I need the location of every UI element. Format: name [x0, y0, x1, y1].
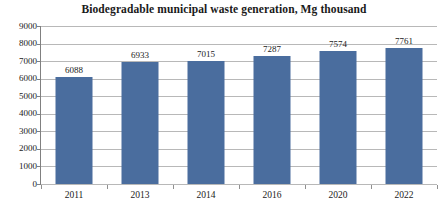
bar-group: 6933 [107, 26, 173, 184]
y-axis-tick-mark [37, 61, 41, 62]
x-axis-tick-label: 2022 [371, 190, 437, 201]
bar-value-label: 6933 [131, 50, 149, 60]
y-axis-tick-label: 6000 [3, 74, 37, 83]
y-axis-tick-label: 1000 [3, 162, 37, 171]
y-axis-tick-label: 8000 [3, 39, 37, 48]
y-axis-tick-mark [37, 44, 41, 45]
y-axis-tick-label: 0 [3, 180, 37, 189]
bar-value-label: 7015 [197, 49, 215, 59]
bar-group: 7015 [173, 26, 239, 184]
y-axis-tick-mark [37, 166, 41, 167]
x-axis-tick-mark [107, 185, 108, 189]
bar-chart: Biodegradable municipal waste generation… [0, 0, 448, 219]
x-axis-tick-mark [437, 185, 438, 189]
y-axis-labels: 9000800070006000500040003000200010000 [0, 0, 37, 219]
x-axis-tick-label: 2013 [107, 190, 173, 201]
y-axis-tick-mark [37, 26, 41, 27]
y-axis-tick-mark [37, 131, 41, 132]
bar-group: 7574 [305, 26, 371, 184]
bar-group: 7287 [239, 26, 305, 184]
chart-title: Biodegradable municipal waste generation… [0, 3, 448, 15]
bar[interactable] [320, 51, 357, 184]
y-axis-tick-label: 5000 [3, 92, 37, 101]
bar-group: 6088 [41, 26, 107, 184]
y-axis-tick-mark [37, 96, 41, 97]
y-axis-tick-label: 2000 [3, 144, 37, 153]
bar[interactable] [188, 61, 225, 184]
bar-group: 7761 [371, 26, 437, 184]
x-axis-tick-mark [371, 185, 372, 189]
bar[interactable] [386, 48, 423, 184]
y-axis-tick-mark [37, 79, 41, 80]
bar-value-label: 6088 [65, 65, 83, 75]
bar[interactable] [122, 62, 159, 184]
bar-value-label: 7287 [263, 44, 281, 54]
plot-area: 608869337015728775747761 [41, 26, 437, 184]
y-axis-tick-label: 3000 [3, 127, 37, 136]
x-axis-tick-mark [239, 185, 240, 189]
bar[interactable] [254, 56, 291, 184]
y-axis-tick-label: 7000 [3, 57, 37, 66]
bar[interactable] [56, 77, 93, 184]
x-axis-tick-label: 2014 [173, 190, 239, 201]
y-axis-tick-mark [37, 114, 41, 115]
y-axis-tick-mark [37, 149, 41, 150]
x-axis-tick-mark [173, 185, 174, 189]
y-axis-tick-label: 9000 [3, 22, 37, 31]
bar-value-label: 7761 [395, 36, 413, 46]
bar-value-label: 7574 [329, 39, 347, 49]
x-axis-tick-label: 2020 [305, 190, 371, 201]
x-axis-tick-label: 2016 [239, 190, 305, 201]
y-axis-tick-label: 4000 [3, 109, 37, 118]
x-axis-tick-mark [41, 185, 42, 189]
x-axis-tick-mark [305, 185, 306, 189]
x-axis-labels: 201120132014201620202022 [41, 190, 437, 206]
x-axis-tick-label: 2011 [41, 190, 107, 201]
